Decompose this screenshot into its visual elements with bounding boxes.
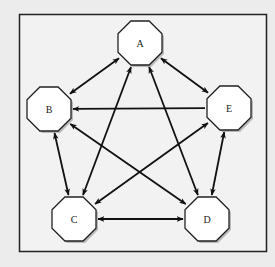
- edge-e-b-arrow: [73, 108, 205, 109]
- node-label: D: [203, 214, 210, 225]
- node-label: B: [46, 104, 53, 115]
- node-label: C: [71, 214, 78, 225]
- node-label: E: [226, 103, 232, 114]
- graph-diagram: ABCDE: [0, 0, 275, 267]
- node-label: A: [136, 38, 144, 49]
